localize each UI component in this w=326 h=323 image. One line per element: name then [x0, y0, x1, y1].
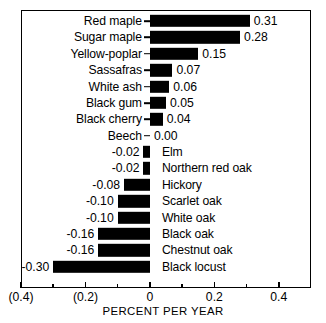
bar-row: Black locust-0.30	[21, 259, 311, 275]
bar-row: Sassafras0.07	[21, 62, 311, 78]
x-tick	[20, 282, 22, 288]
x-tick	[149, 282, 151, 288]
category-label: Sugar maple	[74, 31, 142, 43]
category-label: Chestnut oak	[162, 244, 233, 256]
x-tick-label: 0.2	[206, 291, 223, 303]
bar-row: Chestnut oak-0.16	[21, 242, 311, 258]
category-label: Yellow-poplar	[70, 48, 141, 60]
x-minor-tick	[52, 284, 54, 288]
bar	[150, 48, 198, 60]
value-label: 0.00	[154, 130, 178, 142]
bar-row: Beech0.00	[21, 128, 311, 144]
value-label: -0.30	[21, 261, 49, 273]
bar-row: Yellow-poplar0.15	[21, 46, 311, 62]
value-label: -0.16	[67, 228, 95, 240]
category-label: White ash	[89, 80, 142, 92]
bar	[143, 162, 149, 174]
bar	[150, 64, 173, 76]
category-label: Elm	[162, 146, 183, 158]
value-label: 0.07	[176, 64, 200, 76]
bar	[53, 261, 150, 273]
value-label: 0.05	[170, 97, 194, 109]
value-label: 0.15	[202, 48, 226, 60]
category-label: Black gum	[86, 97, 142, 109]
category-label: Northern red oak	[162, 162, 252, 174]
x-minor-tick	[117, 284, 119, 288]
x-tick	[278, 282, 280, 288]
bar-row: Sugar maple0.28	[21, 29, 311, 45]
value-label: 0.31	[254, 15, 278, 27]
bar	[150, 113, 163, 125]
x-tick-label: 0.4	[270, 291, 287, 303]
value-label: -0.02	[112, 146, 140, 158]
x-axis-title: PERCENT PER YEAR	[0, 305, 326, 317]
value-label: -0.08	[92, 179, 120, 191]
bar-rows: Red maple0.31Sugar maple0.28Yellow-popla…	[21, 13, 311, 275]
x-tick	[85, 282, 87, 288]
category-label: Sassafras	[89, 64, 142, 76]
bar	[98, 244, 150, 256]
bar	[124, 179, 150, 191]
bar-row: Elm-0.02	[21, 144, 311, 160]
x-tick-label: (0.2)	[73, 291, 98, 303]
value-label: 0.06	[173, 80, 197, 92]
value-label: -0.10	[86, 195, 114, 207]
bar	[150, 80, 169, 92]
category-label: Black cherry	[76, 113, 142, 125]
bar-row: Black gum0.05	[21, 95, 311, 111]
bar-row: Red maple0.31	[21, 13, 311, 29]
value-label: -0.02	[112, 162, 140, 174]
bar	[150, 97, 166, 109]
x-tick	[214, 282, 216, 288]
value-label: 0.04	[167, 113, 191, 125]
category-tick	[144, 135, 150, 137]
value-label: -0.10	[86, 211, 114, 223]
bar-row: Black cherry0.04	[21, 111, 311, 127]
bar	[118, 211, 150, 223]
bar-row: Black oak-0.16	[21, 226, 311, 242]
bar-row: White ash0.06	[21, 79, 311, 95]
bar	[143, 146, 149, 158]
category-label: Red maple	[84, 15, 142, 27]
bar	[150, 15, 250, 27]
x-tick-label: 0	[146, 291, 153, 303]
x-tick-label: (0.4)	[8, 291, 33, 303]
value-label: -0.16	[67, 244, 95, 256]
bar	[118, 195, 150, 207]
x-minor-tick	[246, 284, 248, 288]
category-label: Black locust	[162, 261, 226, 273]
value-label: 0.28	[244, 31, 268, 43]
bar-row: Hickory-0.08	[21, 177, 311, 193]
bar-row: Northern red oak-0.02	[21, 160, 311, 176]
bar	[150, 31, 240, 43]
category-label: White oak	[162, 211, 215, 223]
bar-chart: Red maple0.31Sugar maple0.28Yellow-popla…	[0, 0, 326, 323]
bar-row: White oak-0.10	[21, 210, 311, 226]
category-label: Black oak	[162, 228, 214, 240]
category-label: Scarlet oak	[162, 195, 222, 207]
bar-row: Scarlet oak-0.10	[21, 193, 311, 209]
x-minor-tick	[181, 284, 183, 288]
category-label: Hickory	[162, 179, 202, 191]
category-label: Beech	[108, 130, 142, 142]
bar	[98, 228, 150, 240]
